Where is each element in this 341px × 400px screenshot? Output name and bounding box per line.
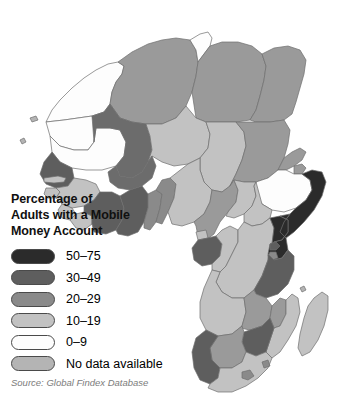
country-cape-verde-islands (20, 138, 26, 144)
source-note: Source: Global Findex Database (11, 377, 148, 388)
legend-label-20-29: 20–29 (66, 292, 101, 306)
legend-item-20-29: 20–29 (11, 289, 197, 309)
legend-title-line-2: Adults with a Mobile (11, 208, 197, 224)
legend-label-30-49: 30–49 (66, 271, 101, 285)
legend-item-10-19: 10–19 (11, 311, 197, 331)
choropleth-map-figure: Percentage of Adults with a Mobile Money… (0, 0, 341, 400)
legend-swatch-50-75 (11, 249, 55, 264)
legend-swatch-no-data (11, 356, 55, 371)
legend-item-0-9: 0–9 (11, 332, 197, 352)
legend-swatch-30-49 (11, 270, 55, 285)
legend-title: Percentage of Adults with a Mobile Money… (11, 192, 197, 239)
legend-title-line-3: Money Account (11, 224, 197, 240)
country-comoros (300, 286, 306, 292)
legend-swatch-0-9 (11, 335, 55, 350)
legend-label-no-data: No data available (66, 357, 163, 371)
legend-item-no-data: No data available (11, 354, 197, 374)
legend-swatch-10-19 (11, 313, 55, 328)
legend-label-0-9: 0–9 (66, 335, 87, 349)
legend-swatch-20-29 (11, 292, 55, 307)
country-canary-islands (30, 116, 38, 122)
legend-item-50-75: 50–75 (11, 246, 197, 266)
legend-label-50-75: 50–75 (66, 249, 101, 263)
map-legend: Percentage of Adults with a Mobile Money… (11, 192, 197, 375)
legend-label-10-19: 10–19 (66, 314, 101, 328)
country-djibouti (294, 164, 306, 174)
legend-title-line-1: Percentage of (11, 192, 197, 208)
country-madagascar (298, 292, 328, 356)
legend-item-30-49: 30–49 (11, 268, 197, 288)
